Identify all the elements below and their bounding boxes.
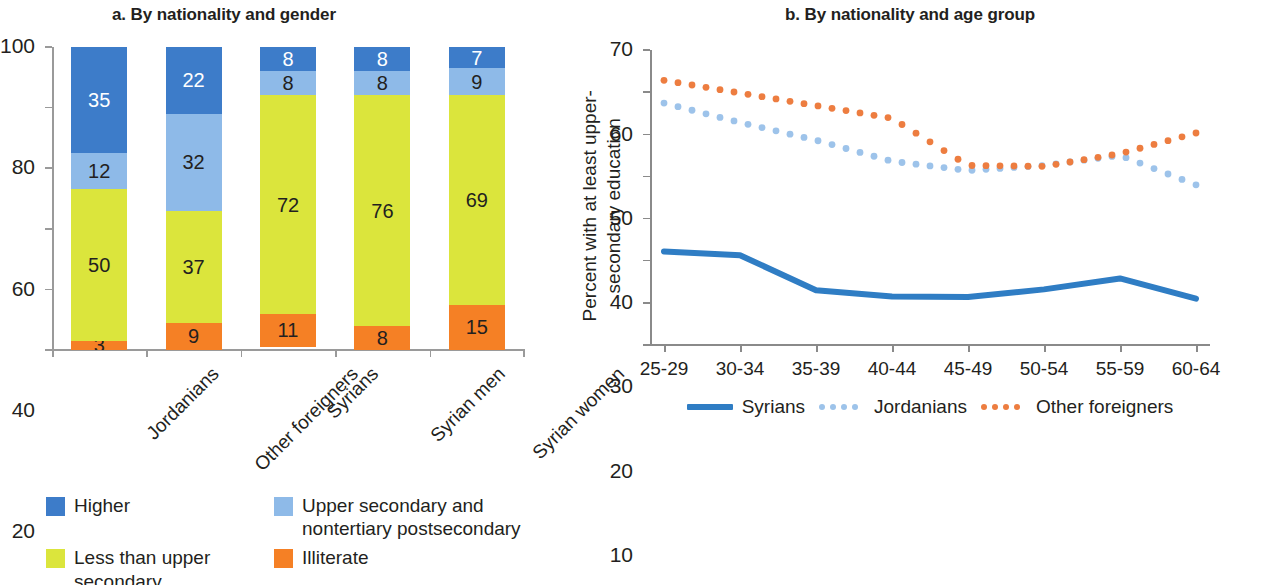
- legend-dot-swatch: [981, 404, 1027, 410]
- chart-b-x-tick-mark: [1120, 344, 1122, 352]
- chart-a-panel: a. By nationality and gender 02040608010…: [0, 0, 560, 470]
- chart-a-x-label: Other foreigners: [250, 363, 363, 476]
- series-dot: [1193, 181, 1200, 188]
- chart-b-x-label: 25-29: [640, 358, 689, 380]
- bar-segment-value: 8: [282, 49, 293, 69]
- bar-segment-value: 8: [282, 73, 293, 93]
- legend-dot: [841, 404, 847, 410]
- chart-a-x-tick-mark: [241, 349, 243, 357]
- series-dot: [703, 84, 710, 91]
- chart-a-x-tick-mark: [335, 349, 337, 357]
- chart-b-x-tick-mark: [1196, 344, 1198, 352]
- series-dot: [661, 100, 668, 107]
- series-dot: [983, 162, 990, 169]
- series-dot: [1039, 163, 1046, 170]
- chart-a-y-tick-mark: 80: [45, 107, 52, 109]
- legend-item: Other foreigners: [981, 396, 1173, 418]
- series-dot: [843, 145, 850, 152]
- chart-a-y-tick-label: 40: [12, 398, 35, 422]
- legend-line-swatch: [687, 404, 733, 410]
- series-dot: [1137, 160, 1144, 167]
- chart-b-y-tick-mark: 30: [643, 218, 650, 220]
- bar-segment: 8: [260, 71, 316, 95]
- series-dot: [1165, 171, 1172, 178]
- bar-segment: 7: [449, 47, 505, 68]
- chart-b-y-tick-mark: 60: [643, 91, 650, 93]
- chart-a-x-tick-mark: [430, 349, 432, 357]
- legend-dot: [981, 404, 987, 410]
- bar-segment: 69: [449, 95, 505, 304]
- chart-b-x-tick-mark: [1044, 344, 1046, 352]
- legend-item: Syrians: [687, 396, 805, 418]
- chart-a-x-label: Syrian men: [427, 363, 511, 447]
- chart-b-title: b. By nationality and age group: [785, 5, 1035, 25]
- bar-segment: 22: [166, 47, 222, 114]
- legend-item: Higher: [46, 494, 274, 517]
- chart-b-x-label: 50-54: [1020, 358, 1069, 380]
- chart-b-y-tick-label: 30: [610, 374, 633, 398]
- chart-a-plot-area: 020406080100 351250322323798872118876879…: [52, 47, 524, 350]
- series-dot: [717, 114, 724, 121]
- series-dot: [955, 156, 962, 163]
- legend-swatch-higher: [46, 497, 65, 516]
- bar-segment-value: 12: [88, 161, 110, 181]
- series-dot: [1151, 141, 1158, 148]
- series-dot: [787, 98, 794, 105]
- bar-segment-value: 9: [471, 72, 482, 92]
- bar-segment: 35: [71, 47, 127, 153]
- legend-dot: [1014, 404, 1020, 410]
- legend-swatch-less-than-upper: [46, 549, 65, 568]
- chart-b-x-label: 60-64: [1172, 358, 1221, 380]
- chart-b-y-tick-label: 60: [610, 122, 633, 146]
- bar-segment-value: 8: [377, 73, 388, 93]
- chart-a-y-tick-label: 20: [12, 519, 35, 543]
- chart-b-x-label: 40-44: [868, 358, 917, 380]
- chart-a-x-tick-mark: [146, 349, 148, 357]
- series-dot: [913, 130, 920, 137]
- series-dot: [1179, 133, 1186, 140]
- series-dot: [941, 147, 948, 154]
- chart-b-x-tick-mark: [968, 344, 970, 352]
- series-dot: [899, 159, 906, 166]
- chart-b-legend: SyriansJordaniansOther foreigners: [650, 396, 1210, 418]
- chart-b-panel: b. By nationality and age group Percent …: [540, 0, 1262, 470]
- chart-b-x-label: 30-34: [716, 358, 765, 380]
- chart-b-y-tick-mark: 20: [643, 260, 650, 262]
- bar-segment: 11: [260, 314, 316, 347]
- series-dot: [759, 124, 766, 131]
- bar-segment-value: 37: [182, 257, 204, 277]
- series-dot: [745, 121, 752, 128]
- series-dot: [1179, 176, 1186, 183]
- bar-segment: 9: [166, 323, 222, 350]
- legend-swatch-illiterate: [274, 549, 293, 568]
- legend-dot: [1003, 404, 1009, 410]
- series-dot: [773, 96, 780, 103]
- bar-segment-value: 22: [182, 70, 204, 90]
- chart-a-title: a. By nationality and gender: [112, 5, 336, 25]
- bar-segment: 50: [71, 189, 127, 341]
- series-dot: [857, 149, 864, 156]
- bar-segment-value: 8: [377, 49, 388, 69]
- series-dot: [661, 77, 668, 84]
- bar-segment: 76: [354, 95, 410, 325]
- bar-segment-value: 8: [377, 328, 388, 348]
- series-dot: [885, 157, 892, 164]
- legend-label: Syrians: [742, 396, 805, 418]
- bar-segment: 8: [354, 71, 410, 95]
- series-dot: [731, 89, 738, 96]
- bar-segment: 72: [260, 95, 316, 313]
- chart-b-y-tick-label: 70: [610, 37, 633, 61]
- legend-item: Less than upper secondary: [46, 546, 274, 585]
- legend-label: Less than upper secondary: [74, 546, 274, 585]
- series-dot: [689, 82, 696, 89]
- bar-segment-value: 3: [94, 341, 105, 350]
- bar-segment: 8: [354, 47, 410, 71]
- bar-segment-value: 69: [466, 190, 488, 210]
- chart-a-x-tick-mark: [523, 349, 525, 357]
- series-dot: [801, 100, 808, 107]
- series-dot: [675, 79, 682, 86]
- legend-swatch-upper-secondary: [274, 497, 293, 516]
- chart-a-x-label: Jordanians: [142, 363, 223, 444]
- bar-segment: 3: [71, 341, 127, 350]
- bar-segment: 8: [354, 326, 410, 350]
